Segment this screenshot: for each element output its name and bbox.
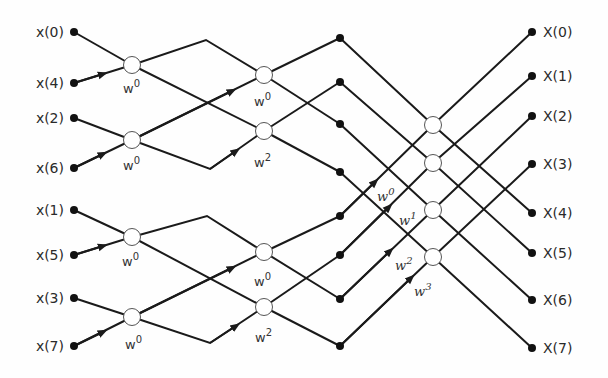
fft-butterfly-diagram: x(0) x(4) x(2) x(6) x(1) x(5) x(3) x(7) … (0, 0, 608, 378)
input-dots (70, 28, 78, 350)
twiddle-label: w0 (254, 91, 271, 109)
stage3-edges (340, 32, 532, 348)
input-label: x(2) (36, 110, 64, 126)
junction-dots (336, 34, 344, 350)
output-label: X(7) (543, 340, 572, 356)
butterfly-node (425, 249, 442, 266)
input-label: x(7) (36, 338, 64, 354)
stage1-nodes (124, 57, 141, 326)
stage1-edges (74, 32, 132, 346)
butterfly-node (425, 202, 442, 219)
butterfly-node (425, 117, 442, 134)
output-label: X(3) (543, 156, 572, 172)
output-label: X(1) (543, 68, 572, 84)
output-label: X(4) (543, 205, 572, 221)
butterfly-node (256, 67, 273, 84)
stage2-to-junction-edges (264, 38, 340, 346)
butterfly-node (256, 123, 273, 140)
output-label: X(5) (543, 245, 572, 261)
butterfly-node (256, 244, 273, 261)
twiddle-label: w2 (255, 327, 272, 345)
stage3-twiddle-labels: w0 w1 w2 w3 (377, 186, 432, 299)
output-label: X(0) (543, 24, 572, 40)
input-label: x(6) (36, 160, 64, 176)
twiddle-label: w0 (123, 78, 140, 96)
twiddle-label: w0 (254, 271, 271, 289)
output-label: X(2) (543, 108, 572, 124)
input-label: x(3) (36, 290, 64, 306)
butterfly-node (124, 309, 141, 326)
twiddle-label: w1 (399, 210, 417, 228)
twiddle-label: w0 (377, 186, 395, 204)
input-label: x(0) (36, 24, 64, 40)
output-label: X(6) (543, 292, 572, 308)
twiddle-label: w2 (254, 152, 271, 170)
butterfly-node (256, 299, 273, 316)
input-label: x(1) (36, 202, 64, 218)
twiddle-label: w3 (414, 281, 432, 299)
twiddle-label: w0 (123, 155, 140, 173)
output-labels: X(0) X(1) X(2) X(3) X(4) X(5) X(6) X(7) (543, 24, 572, 356)
twiddle-label: w0 (125, 334, 142, 352)
input-labels: x(0) x(4) x(2) x(6) x(1) x(5) x(3) x(7) (36, 24, 64, 354)
output-dots (528, 28, 536, 352)
twiddle-label: w2 (395, 255, 413, 273)
input-label: x(5) (36, 247, 64, 263)
input-label: x(4) (36, 75, 64, 91)
butterfly-node (124, 229, 141, 246)
butterfly-node (124, 57, 141, 74)
butterfly-node (124, 132, 141, 149)
butterfly-node (425, 155, 442, 172)
stage2-edges (132, 40, 264, 343)
fft-flow-graph: x(0) x(4) x(2) x(6) x(1) x(5) x(3) x(7) … (0, 0, 608, 378)
twiddle-label: w0 (122, 251, 139, 269)
stage3-nodes (425, 117, 442, 266)
